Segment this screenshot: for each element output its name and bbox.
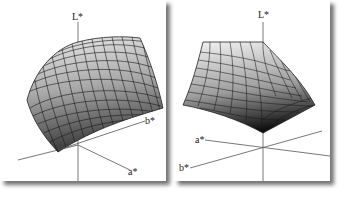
axis-line [18,145,78,160]
a-axis-line [205,140,330,156]
left-plot-panel: L* b* a* [0,0,166,181]
b-axis-line [190,131,322,168]
l-axis-label: L* [72,12,83,22]
a-axis-line [78,145,130,170]
left-surface-plot [0,0,166,181]
b-axis-label: b* [145,116,155,126]
right-plot-panel: L* a* b* [174,0,330,181]
a-axis-label: a* [128,167,137,177]
right-surface-plot [174,0,330,181]
b-axis-label: b* [179,163,189,173]
a-axis-label: a* [195,135,204,145]
l-axis-label: L* [258,10,269,20]
